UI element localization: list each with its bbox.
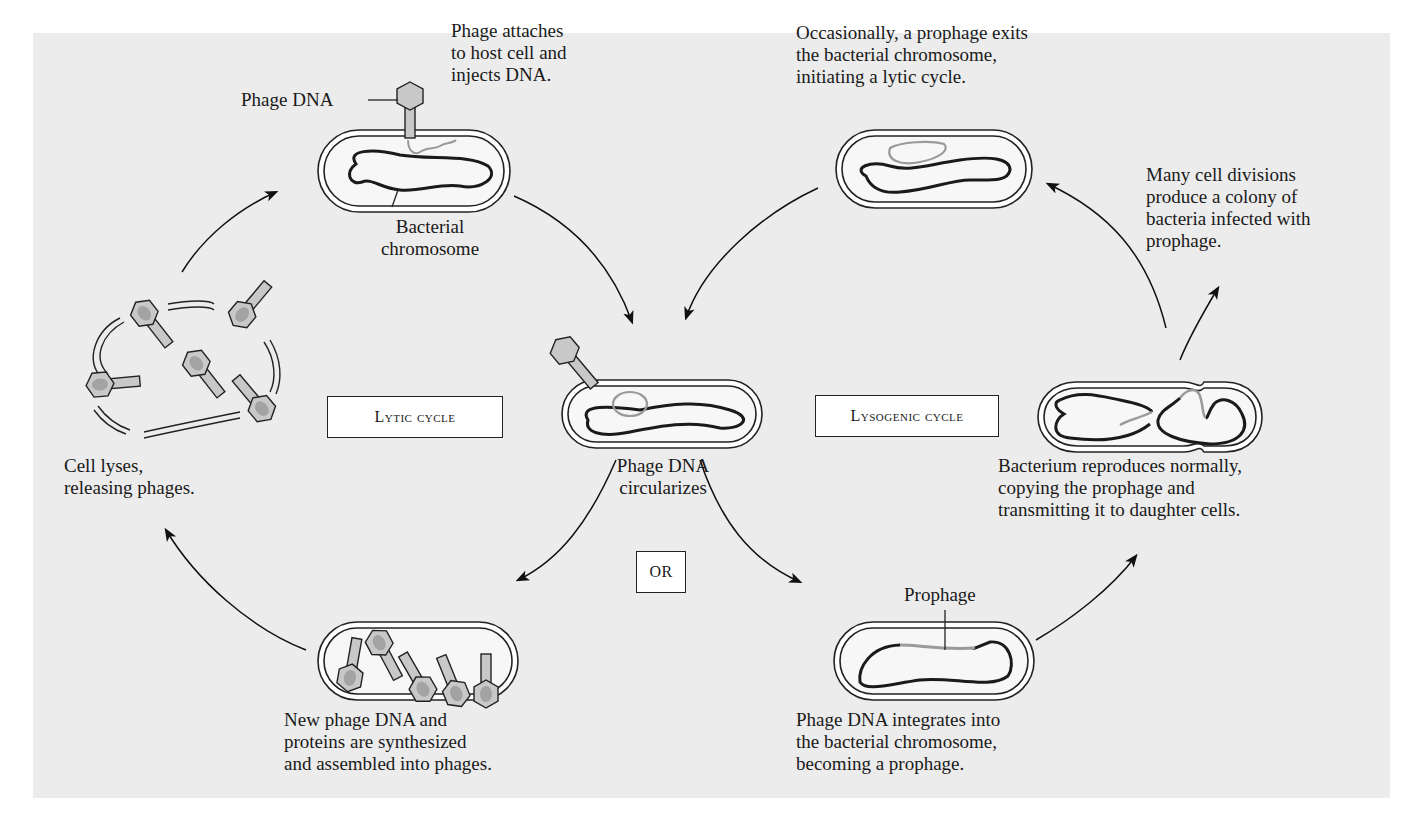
phage-life-cycle-diagram xyxy=(0,0,1413,819)
lysogenic-cycle-label: Lysogenic cycle xyxy=(815,395,999,437)
phage-icon xyxy=(224,276,277,333)
caption-cell-divisions: Many cell divisions produce a colony of … xyxy=(1146,164,1311,252)
cell-attachment xyxy=(318,82,510,212)
cell-dividing xyxy=(1038,382,1262,452)
phage-icon xyxy=(178,345,230,402)
arrow-to-reproduce xyxy=(1036,556,1136,640)
cell-prophage-exit xyxy=(836,130,1032,208)
label-bacterial-chromosome: Bacterial chromosome xyxy=(345,216,515,260)
cell-prophage xyxy=(834,610,1034,700)
caption-attach: Phage attaches to host cell and injects … xyxy=(451,20,567,86)
or-label: OR xyxy=(636,551,686,593)
arrow-to-lysis xyxy=(166,530,306,650)
caption-cell-lyses: Cell lyses, releasing phages. xyxy=(64,455,195,499)
cell-lysing xyxy=(85,276,280,438)
cell-assembly xyxy=(318,622,518,711)
caption-prophage-exits: Occasionally, a prophage exits the bacte… xyxy=(796,22,1028,88)
lytic-cycle-label: Lytic cycle xyxy=(327,396,503,438)
cell-circularized xyxy=(546,331,762,448)
caption-bacterium-reproduces: Bacterium reproduces normally, copying t… xyxy=(998,455,1242,521)
caption-circularizes: Phage DNA circularizes xyxy=(578,455,748,499)
phage-icon xyxy=(85,369,141,398)
arrow-to-attachment xyxy=(182,192,276,272)
caption-dna-integrates: Phage DNA integrates into the bacterial … xyxy=(796,709,1000,775)
label-prophage: Prophage xyxy=(904,584,976,606)
arrow-to-colony xyxy=(1180,288,1218,360)
arrow-to-circularize xyxy=(514,196,632,322)
arrow-exit-to-circularize xyxy=(686,188,818,318)
caption-phages-synthesized: New phage DNA and proteins are synthesiz… xyxy=(284,709,492,775)
label-phage-dna: Phage DNA xyxy=(241,89,333,111)
